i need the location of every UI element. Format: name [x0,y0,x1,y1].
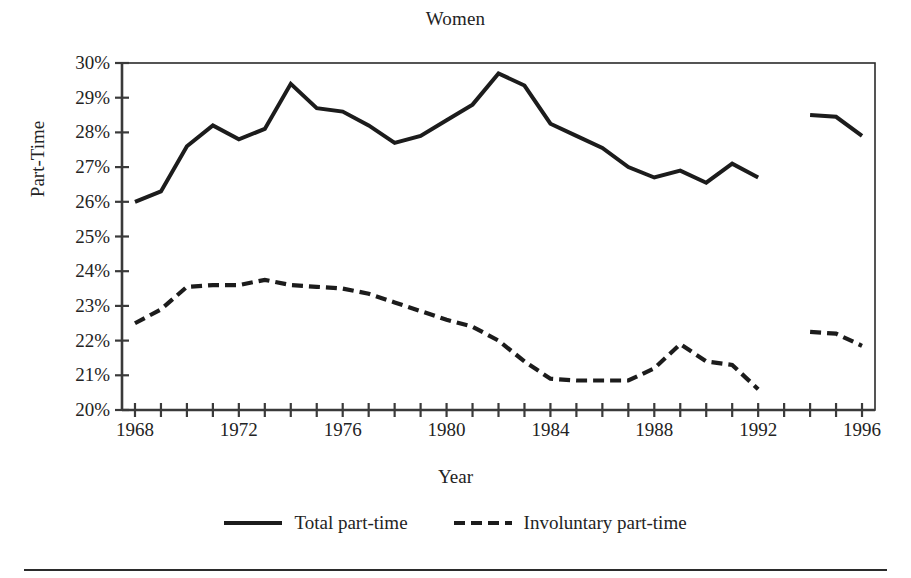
figure: Women Part-Time Year 30%29%28%27%26%25%2… [0,0,911,578]
y-tick-label: 28% [46,122,110,141]
legend-entry: Total part-time [224,512,407,534]
x-tick-label: 1968 [100,420,170,439]
legend-label: Total part-time [294,512,407,534]
axes [122,63,875,410]
y-tick-label: 30% [46,53,110,72]
x-tick-label: 1976 [308,420,378,439]
x-tick-label: 1992 [723,420,793,439]
y-tick-label: 29% [46,88,110,107]
y-tick-label: 21% [46,365,110,384]
y-tick-label: 24% [46,261,110,280]
legend-swatch-dashed [454,521,512,525]
footer-rule [24,569,887,571]
y-tick-label: 27% [46,157,110,176]
chart-legend: Total part-timeInvoluntary part-time [0,512,911,534]
x-tick-label: 1972 [204,420,274,439]
y-tick-label: 26% [46,192,110,211]
axis-ticks [115,63,862,417]
y-tick-label: 20% [46,400,110,419]
y-tick-label: 22% [46,331,110,350]
x-tick-label: 1980 [412,420,482,439]
data-series [135,73,862,389]
x-tick-label: 1984 [515,420,585,439]
series-line [810,332,862,346]
series-line [135,73,758,201]
x-tick-label: 1988 [619,420,689,439]
plot-area [0,0,911,578]
x-tick-label: 1996 [827,420,897,439]
y-tick-label: 23% [46,296,110,315]
legend-label: Involuntary part-time [524,512,687,534]
series-line [135,280,758,389]
legend-swatch-solid [224,521,282,525]
legend-entry: Involuntary part-time [454,512,687,534]
series-line [810,115,862,136]
y-tick-label: 25% [46,227,110,246]
